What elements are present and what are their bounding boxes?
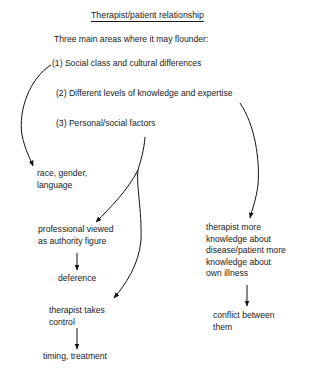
node-deference: deference (58, 273, 96, 285)
intro-text: Three main areas where it may flounder: (54, 34, 208, 46)
node-knowledge-line: knowledge about (206, 257, 286, 269)
node-knowledge-line: knowledge about (206, 234, 286, 246)
node-control-line: therapist takes (49, 305, 105, 317)
node-conflict-line: them (213, 322, 275, 334)
node-authority-line: professional viewed (38, 224, 113, 236)
area-2-label: (2) Different levels of knowledge and ex… (56, 88, 233, 100)
diagram-title: Therapist/patient relationship (91, 10, 204, 22)
arrow-area2-to-knowledge (240, 103, 258, 218)
area-1-label: (1) Social class and cultural difference… (52, 58, 201, 70)
node-knowledge-line: therapist more (206, 222, 286, 234)
arrow-area1-to-race (21, 65, 51, 166)
node-control-line: control (49, 317, 105, 329)
node-knowledge-line: own illness (206, 268, 286, 280)
node-authority: professional viewed as authority figure (38, 224, 113, 247)
node-timing: timing, treatment (43, 351, 107, 363)
node-control: therapist takes control (49, 305, 105, 328)
node-knowledge: therapist more knowledge about disease/p… (206, 222, 286, 280)
arrow-area3-stem (138, 137, 145, 170)
node-authority-line: as authority figure (38, 236, 113, 248)
arrow-to-control (114, 170, 141, 298)
area-3-label: (3) Personal/social factors (56, 118, 155, 130)
node-conflict: conflict between them (213, 310, 275, 333)
node-conflict-line: conflict between (213, 310, 275, 322)
node-knowledge-line: disease/patient more (206, 245, 286, 257)
node-race: race, gender, language (37, 168, 87, 191)
node-race-line: language (37, 180, 87, 192)
node-race-line: race, gender, (37, 168, 87, 180)
arrow-to-authority (96, 170, 138, 222)
